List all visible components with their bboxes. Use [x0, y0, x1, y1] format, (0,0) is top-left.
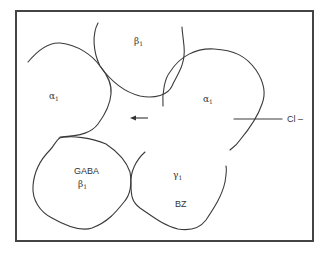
alpha-left-label: α1	[49, 91, 59, 102]
alpha-right-label: α1	[203, 94, 213, 105]
alpha-right-subunit	[163, 49, 264, 150]
gamma-bz-subunit	[131, 152, 227, 230]
alpha-left-subunit	[28, 43, 111, 137]
gaba-site-label: GABA	[74, 166, 99, 176]
beta-gaba-label: β1	[78, 179, 87, 190]
flow-arrow-icon	[130, 116, 148, 121]
beta-top-subunit	[94, 23, 184, 97]
chloride-label: Cl –	[287, 114, 303, 124]
bz-site-label: BZ	[175, 199, 187, 209]
gamma-label: γ1	[173, 170, 182, 181]
beta-top-label: β1	[134, 36, 143, 47]
gaba-receptor-diagram: α1 β1 α1 Cl – GABA β1 γ1 BZ	[0, 0, 328, 253]
diagram-frame	[16, 11, 313, 241]
